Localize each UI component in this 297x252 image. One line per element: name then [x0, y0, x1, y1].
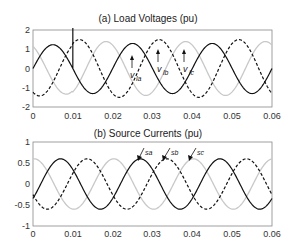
arrow-down-icon — [137, 155, 142, 161]
annotation-sub: sc — [197, 149, 205, 156]
annotation-label: v — [183, 64, 188, 74]
arrow-up-icon — [182, 49, 186, 54]
annotation-sub: lb — [163, 69, 169, 76]
y-tick: -2 — [22, 102, 30, 112]
annotation-v-la: v la — [130, 55, 142, 82]
annotation-v-lc: v lc — [182, 49, 195, 76]
top-chart-title: (a) Load Voltages (pu) — [99, 13, 198, 24]
annotation-sub: sa — [145, 149, 153, 156]
annotation-sub: lc — [189, 69, 195, 76]
annotation-v-lb: v lb — [156, 49, 169, 76]
bottom-x-axis: 0 0.01 0.02 0.03 0.04 0.05 0.06 — [30, 229, 280, 239]
x-tick: 0.04 — [183, 111, 201, 121]
x-tick: 0.02 — [104, 111, 122, 121]
arrow-up-icon — [156, 49, 160, 54]
bottom-chart-title: (b) Source Currents (pu) — [94, 128, 202, 139]
annotation-sub: la — [136, 75, 142, 82]
series-i-sb — [33, 159, 272, 209]
x-tick: 0.06 — [263, 111, 281, 121]
annotation-i-sb: sb — [162, 148, 179, 161]
x-tick: 0.04 — [183, 229, 201, 239]
y-tick: 2 — [25, 25, 30, 35]
x-tick: 0.01 — [64, 229, 82, 239]
y-tick: -0.5 — [14, 200, 30, 210]
x-tick: 0.05 — [223, 111, 241, 121]
arrow-up-icon — [130, 55, 134, 60]
series-v-la — [33, 28, 272, 94]
top-y-axis: 2 1 0 -1 -2 — [22, 25, 30, 112]
y-tick: -1 — [22, 83, 30, 93]
annotation-label: v — [157, 64, 162, 74]
x-tick: 0.03 — [143, 111, 161, 121]
y-tick: 1 — [25, 137, 30, 147]
y-tick: 0 — [25, 179, 30, 189]
top-x-axis: 0 0.01 0.02 0.03 0.04 0.05 0.06 — [30, 111, 280, 121]
x-tick: 0.03 — [143, 229, 161, 239]
annotation-label: v — [130, 70, 135, 80]
y-tick: 0.5 — [17, 158, 30, 168]
x-tick: 0.01 — [64, 111, 82, 121]
bottom-plot-area — [33, 142, 272, 226]
x-tick: 0 — [30, 111, 35, 121]
annotation-i-sa: sa — [137, 148, 153, 161]
x-tick: 0.06 — [263, 229, 281, 239]
y-tick: 0 — [25, 64, 30, 74]
annotation-sub: sb — [171, 149, 179, 156]
x-tick: 0 — [30, 229, 35, 239]
x-tick: 0.05 — [223, 229, 241, 239]
bottom-y-axis: 1 0.5 0 -0.5 -1 — [14, 137, 30, 231]
y-tick: 1 — [25, 44, 30, 54]
x-tick: 0.02 — [104, 229, 122, 239]
y-tick: -1 — [22, 221, 30, 231]
figure: (a) Load Voltages (pu) (b) Source Curren… — [0, 0, 297, 252]
